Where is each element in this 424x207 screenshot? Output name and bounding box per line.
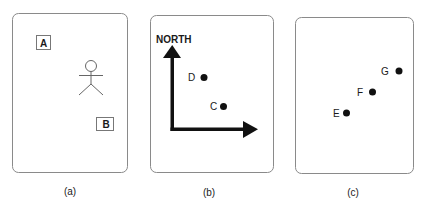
point-f: F — [357, 87, 376, 98]
point-d: D — [188, 72, 208, 83]
point-g: G — [381, 66, 403, 77]
stick-person-icon — [79, 61, 103, 96]
caption-a: (a) — [64, 186, 76, 197]
diagram-canvas: A B (a) NORTH D C — [0, 0, 424, 207]
panel-a: A B (a) — [13, 14, 128, 198]
box-a-label: A — [40, 38, 47, 49]
caption-c: (c) — [347, 187, 359, 198]
panel-a-border — [13, 14, 128, 173]
panel-c-border — [296, 18, 414, 174]
panel-c: G F E (c) — [296, 18, 414, 199]
point-c-dot — [220, 103, 227, 110]
point-e: E — [333, 108, 350, 119]
point-e-label: E — [333, 108, 340, 119]
north-label: NORTH — [156, 34, 192, 45]
north-arrow-icon — [163, 45, 181, 131]
point-g-dot — [396, 68, 403, 75]
point-d-label: D — [188, 72, 195, 83]
point-f-dot — [369, 89, 376, 96]
box-a: A — [37, 36, 51, 50]
point-f-label: F — [357, 87, 363, 98]
box-b: B — [97, 118, 114, 131]
box-b-label: B — [102, 119, 109, 130]
point-c: C — [210, 101, 227, 112]
point-c-label: C — [210, 101, 217, 112]
caption-b: (b) — [203, 187, 215, 198]
point-g-label: G — [381, 66, 389, 77]
east-arrow-icon — [171, 121, 259, 138]
point-e-dot — [343, 110, 350, 117]
point-d-dot — [201, 74, 208, 81]
panel-b: NORTH D C (b) — [151, 16, 274, 199]
